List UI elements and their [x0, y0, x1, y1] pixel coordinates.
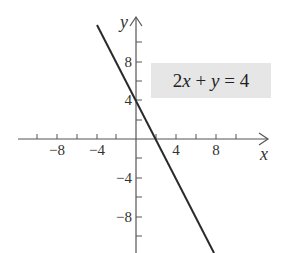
y-tick-label-8: 8 — [125, 54, 133, 70]
x-tick-label-neg8: −8 — [49, 142, 65, 158]
eq-plus: + — [191, 70, 211, 92]
y-axis-label: y — [118, 12, 128, 32]
y-tick-label-neg4: −4 — [116, 170, 132, 186]
plot-svg: −8 −4 4 8 x 8 4 −4 — [0, 0, 289, 253]
x-axis-label: x — [259, 144, 268, 164]
x-axis: −8 −4 4 8 x — [18, 133, 268, 164]
eq-rhs: = 4 — [219, 70, 249, 92]
eq-x: x — [182, 70, 190, 92]
eq-coef: 2 — [173, 70, 183, 92]
x-tick-label-neg4: −4 — [89, 142, 105, 158]
chart-canvas: −8 −4 4 8 x 8 4 −4 — [0, 0, 289, 253]
eq-y: y — [211, 70, 219, 92]
y-axis: 8 4 −4 −8 y — [116, 12, 142, 253]
y-tick-label-4: 4 — [125, 92, 133, 108]
equation-label: 2x + y = 4 — [151, 63, 271, 98]
x-tick-label-8: 8 — [212, 142, 220, 158]
x-tick-label-4: 4 — [172, 142, 180, 158]
y-tick-label-neg8: −8 — [116, 209, 132, 225]
